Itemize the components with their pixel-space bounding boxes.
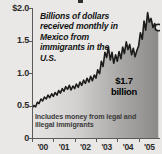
y-axis-label: 1.5: [17, 36, 29, 45]
x-axis-label: '04: [123, 143, 134, 152]
x-axis-label: '01: [59, 143, 70, 152]
callout-value: $1.7: [102, 76, 146, 87]
chart-caption: Billions of dollars received monthly in …: [40, 11, 118, 63]
x-axis-label: '03: [101, 143, 112, 152]
y-axis-labels: $2.0 1.5 1.0 0.5 0: [0, 0, 29, 154]
x-tick-mark: [117, 139, 118, 142]
x-tick-mark: [96, 139, 97, 142]
y-axis-label: $2.0: [12, 4, 29, 13]
y-axis-label: 0: [24, 134, 29, 143]
y-tick-mark: [29, 8, 32, 9]
y-axis: [32, 8, 33, 139]
x-axis-label: '00: [37, 143, 48, 152]
chart-figure: $2.0 1.5 1.0 0.5 0 '00 '01 '02 '03 '04 '…: [0, 0, 162, 154]
y-tick-mark: [29, 41, 32, 42]
x-tick-mark: [139, 139, 140, 142]
value-callout: $1.7 billion: [102, 76, 146, 97]
y-axis-label: 1.0: [17, 69, 29, 78]
y-tick-mark: [29, 73, 32, 74]
chart-footnote: Includes money from legal and illegal im…: [35, 113, 153, 130]
x-tick-mark: [53, 139, 54, 142]
x-tick-mark: [32, 139, 33, 142]
y-tick-mark: [29, 106, 32, 107]
y-axis-label: 0.5: [17, 101, 29, 110]
callout-unit: billion: [102, 87, 146, 98]
x-axis-label: '05: [144, 143, 155, 152]
x-tick-mark: [75, 139, 76, 142]
x-axis-label: '02: [80, 143, 91, 152]
endpoint-marker: [155, 24, 160, 30]
cropped-title-remnant: [78, 0, 83, 3]
